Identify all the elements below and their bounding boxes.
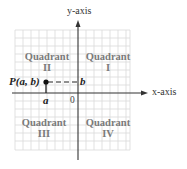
x-axis-arrow-icon <box>141 91 148 96</box>
quadrant-iv-label: Quadrant IV <box>80 117 136 139</box>
quadrant-ii-label: Quadrant II <box>19 51 75 73</box>
point-a-label: a <box>43 94 49 106</box>
origin-label: 0 <box>70 95 75 105</box>
quadrant-iii-label: Quadrant III <box>16 117 72 139</box>
y-axis-label: y-axis <box>67 5 91 16</box>
y-axis-arrow-icon <box>76 20 81 27</box>
x-axis-label: x-axis <box>152 86 176 97</box>
point-p-label: P(a, b) <box>9 75 40 87</box>
coordinate-plane-diagram: y-axis x-axis 0 Quadrant II Quadrant I Q… <box>0 0 187 169</box>
point-b-label: b <box>80 75 86 87</box>
point-p-marker <box>43 79 48 84</box>
quadrant-i-label: Quadrant I <box>80 51 136 73</box>
